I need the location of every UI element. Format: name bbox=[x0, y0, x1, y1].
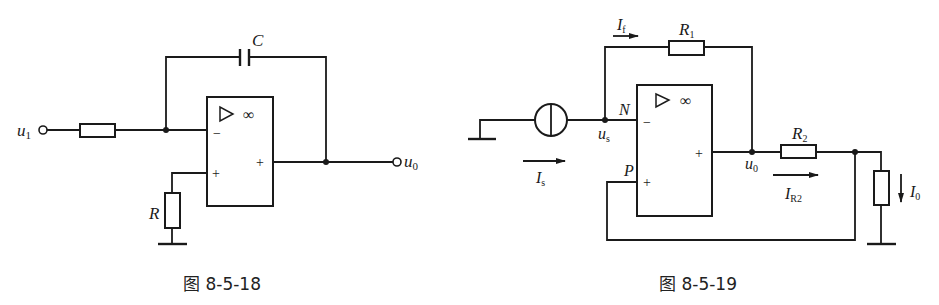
ground-resistor bbox=[165, 193, 180, 228]
feedback-current-label: If bbox=[616, 16, 626, 35]
node-n-label: N bbox=[618, 101, 631, 118]
inv-sign: − bbox=[643, 115, 651, 130]
opamp-body bbox=[207, 97, 273, 206]
input-terminal bbox=[39, 126, 47, 134]
circuit-figures: u1 C ∞ − + + u0 R 图 8-5-18 bbox=[0, 0, 939, 305]
r2-current-label: IR2 bbox=[784, 185, 802, 204]
source-ground-wire bbox=[480, 120, 535, 139]
capacitor-label: C bbox=[252, 31, 264, 50]
noninv-sign: + bbox=[643, 175, 651, 190]
source-current-label: Is bbox=[535, 169, 545, 188]
out-sign: + bbox=[256, 155, 264, 170]
noninv-sign: + bbox=[212, 166, 220, 181]
load-current-label: I0 bbox=[909, 183, 920, 202]
input-label: u1 bbox=[17, 121, 31, 141]
r2-to-load-wire bbox=[816, 152, 881, 171]
output-voltage-label: u0 bbox=[745, 155, 758, 174]
load-resistor bbox=[874, 171, 889, 205]
output-terminal bbox=[393, 158, 401, 166]
figure-8-5-18: u1 C ∞ − + + u0 R 图 8-5-18 bbox=[17, 31, 419, 294]
r1-label: R1 bbox=[678, 20, 694, 40]
source-voltage-label: us bbox=[598, 125, 610, 144]
resistor-r2 bbox=[781, 145, 816, 158]
r2-label: R2 bbox=[791, 124, 807, 144]
opamp-gain: ∞ bbox=[680, 92, 691, 109]
figure-8-5-19: us Is R1 If ∞ − + + N P u0 R2 IR2 bbox=[468, 16, 920, 294]
node-p-label: P bbox=[623, 162, 634, 179]
figure-caption: 图 8-5-18 bbox=[183, 274, 261, 294]
resistor-label: R bbox=[148, 204, 160, 223]
figure-caption: 图 8-5-19 bbox=[659, 274, 737, 294]
noninv-wire bbox=[172, 173, 207, 193]
output-junction-dot bbox=[323, 159, 329, 165]
inv-sign: − bbox=[213, 126, 221, 141]
output-label: u0 bbox=[404, 152, 419, 172]
opamp-gain: ∞ bbox=[243, 106, 254, 123]
input-resistor bbox=[80, 124, 115, 137]
out-sign: + bbox=[695, 146, 703, 161]
resistor-r1 bbox=[669, 41, 704, 55]
